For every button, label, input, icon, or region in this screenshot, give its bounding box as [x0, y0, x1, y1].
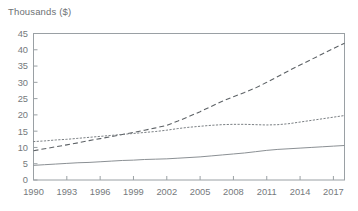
- series-dashed: [34, 43, 345, 150]
- x-tick-label: 1999: [123, 187, 144, 197]
- y-tick-label: 40: [18, 45, 28, 55]
- x-tick-label: 1993: [56, 187, 77, 197]
- y-axis-tick-marks: [34, 34, 38, 181]
- y-tick-label: 30: [18, 78, 28, 88]
- y-tick-label: 10: [18, 143, 28, 153]
- x-axis-tick-marks: [34, 176, 334, 180]
- x-tick-label: 2005: [190, 187, 211, 197]
- y-tick-label: 25: [18, 94, 28, 104]
- x-tick-label: 2002: [156, 187, 177, 197]
- series-solid: [34, 145, 345, 165]
- x-axis-tick-labels: 1990199319961999200220052008201120142017: [23, 187, 344, 197]
- y-tick-label: 0: [23, 175, 28, 185]
- y-tick-label: 20: [18, 110, 28, 120]
- y-axis-tick-labels: 051015202530354045: [18, 29, 28, 186]
- y-tick-label: 15: [18, 127, 28, 137]
- chart-container: Thousands ($) 051015202530354045 1990199…: [0, 0, 358, 211]
- x-tick-label: 2008: [223, 187, 244, 197]
- y-tick-label: 35: [18, 61, 28, 71]
- x-tick-label: 2017: [323, 187, 344, 197]
- y-tick-label: 45: [18, 29, 28, 39]
- y-tick-label: 5: [23, 159, 28, 169]
- x-tick-label: 1996: [90, 187, 111, 197]
- x-tick-label: 2014: [290, 187, 311, 197]
- data-series-group: [34, 43, 345, 165]
- series-dotted: [34, 116, 345, 142]
- x-tick-label: 2011: [257, 187, 277, 197]
- x-tick-label: 1990: [23, 187, 44, 197]
- line-chart-plot: 051015202530354045 199019931996199920022…: [0, 0, 358, 211]
